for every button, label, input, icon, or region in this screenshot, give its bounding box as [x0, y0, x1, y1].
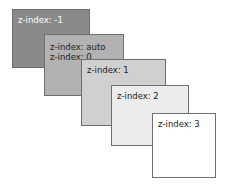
layer-label: z-index: auto [50, 42, 123, 52]
layer-label: z-index: 2 [117, 91, 188, 101]
layer-label: z-index: 3 [158, 119, 215, 129]
layer-label: z-index: -1 [18, 15, 89, 25]
layer-label: z-index: 1 [87, 65, 165, 75]
layer-box-z-3: z-index: 3 [152, 113, 216, 178]
